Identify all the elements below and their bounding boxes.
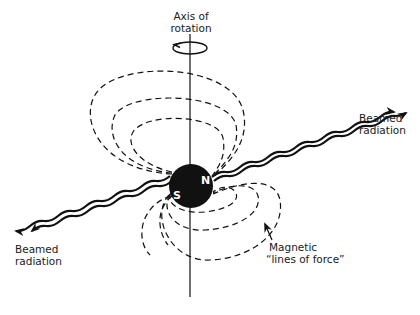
magnetic-lines-label: Magnetic “lines of force”: [266, 241, 345, 265]
axis-label-line2: rotation: [160, 22, 222, 34]
beam-right-line1: Beamed: [359, 112, 406, 124]
magnetic-field-lines-upper: [90, 71, 244, 178]
magnetic-field-lines-lower: [142, 183, 281, 260]
field-label-line1: Magnetic: [266, 241, 345, 253]
axis-of-rotation-label: Axis of rotation: [160, 10, 222, 34]
beamed-radiation-left-label: Beamed radiation: [15, 243, 62, 267]
pulsar-diagram: [0, 0, 420, 315]
beamed-radiation-left: [16, 176, 172, 231]
field-label-line2: “lines of force”: [266, 253, 345, 265]
beamed-radiation-right-label: Beamed radiation: [359, 112, 406, 136]
beam-right-line2: radiation: [359, 124, 406, 136]
south-pole-label: S: [173, 190, 181, 202]
beam-left-line1: Beamed: [15, 243, 62, 255]
beam-left-line2: radiation: [15, 255, 62, 267]
north-pole-label: N: [201, 175, 210, 187]
axis-label-line1: Axis of: [160, 10, 222, 22]
